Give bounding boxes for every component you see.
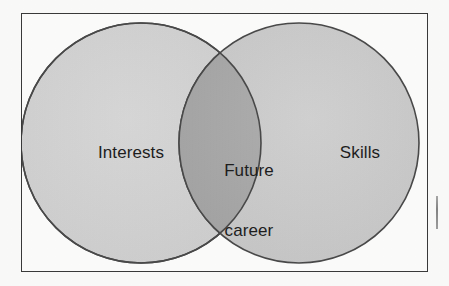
page-edge-artifact — [436, 196, 438, 229]
venn-diagram-figure: Interests Skills Future career goals — [0, 0, 449, 286]
figure-frame: Interests Skills Future career goals — [21, 13, 428, 272]
overlap-label-line-2: career — [194, 221, 304, 241]
overlap-label: Future career goals — [194, 121, 304, 272]
left-set-label: Interests — [56, 143, 206, 163]
right-set-label: Skills — [295, 143, 425, 163]
overlap-label-line-1: Future — [194, 161, 304, 181]
